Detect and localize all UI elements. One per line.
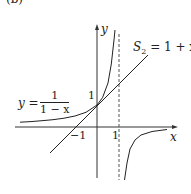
tick-label-y1: 1 [88, 90, 95, 101]
curve-label-fraction: 1 1 − x [40, 90, 69, 115]
curve-label-lhs: y = [18, 97, 39, 109]
curve-right-branch [125, 130, 168, 181]
y-axis-label: y [101, 23, 108, 35]
tick-label-neg1: −1 [70, 130, 86, 141]
x-axis-arrow-icon [172, 125, 178, 129]
panel-label: (b) [6, 0, 23, 5]
line-s2-subscript: 2 [141, 47, 146, 56]
line-s2-symbol: S [133, 40, 141, 54]
line-s2-label: S2 = 1 + x [133, 41, 191, 56]
x-axis-label: x [170, 131, 177, 143]
fraction-denominator: 1 − x [40, 103, 69, 115]
y-axis-arrow-icon [95, 24, 99, 30]
line-s2-rhs: = 1 + x [150, 40, 191, 54]
fraction-numerator: 1 [51, 90, 58, 102]
tick-label-x1: 1 [112, 130, 119, 141]
